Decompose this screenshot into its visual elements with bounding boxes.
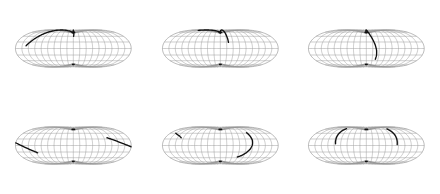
projection-svg-2 bbox=[147, 0, 294, 97]
projection-panel-3[interactable] bbox=[293, 0, 440, 97]
track-track-b bbox=[73, 30, 74, 36]
projection-svg-5 bbox=[147, 97, 294, 194]
projection-panel-2[interactable] bbox=[147, 0, 294, 97]
track-track-a bbox=[16, 143, 38, 153]
projection-panel-4[interactable] bbox=[0, 97, 147, 194]
graticule-group-3 bbox=[309, 30, 425, 67]
track-group-3 bbox=[365, 30, 377, 64]
graticule-group-6 bbox=[309, 127, 425, 164]
projection-panel-6[interactable] bbox=[293, 97, 440, 194]
graticule-group-2 bbox=[162, 30, 278, 67]
graticule-group-4 bbox=[15, 127, 131, 164]
projection-panel-5[interactable] bbox=[147, 97, 294, 194]
panel-grid bbox=[0, 0, 440, 194]
figure-root bbox=[0, 0, 440, 194]
projection-svg-1 bbox=[0, 0, 147, 97]
projection-panel-1[interactable] bbox=[0, 0, 147, 97]
projection-svg-4 bbox=[0, 97, 147, 194]
projection-svg-6 bbox=[293, 97, 440, 194]
graticule-group-5 bbox=[162, 127, 278, 164]
projection-svg-3 bbox=[293, 0, 440, 97]
